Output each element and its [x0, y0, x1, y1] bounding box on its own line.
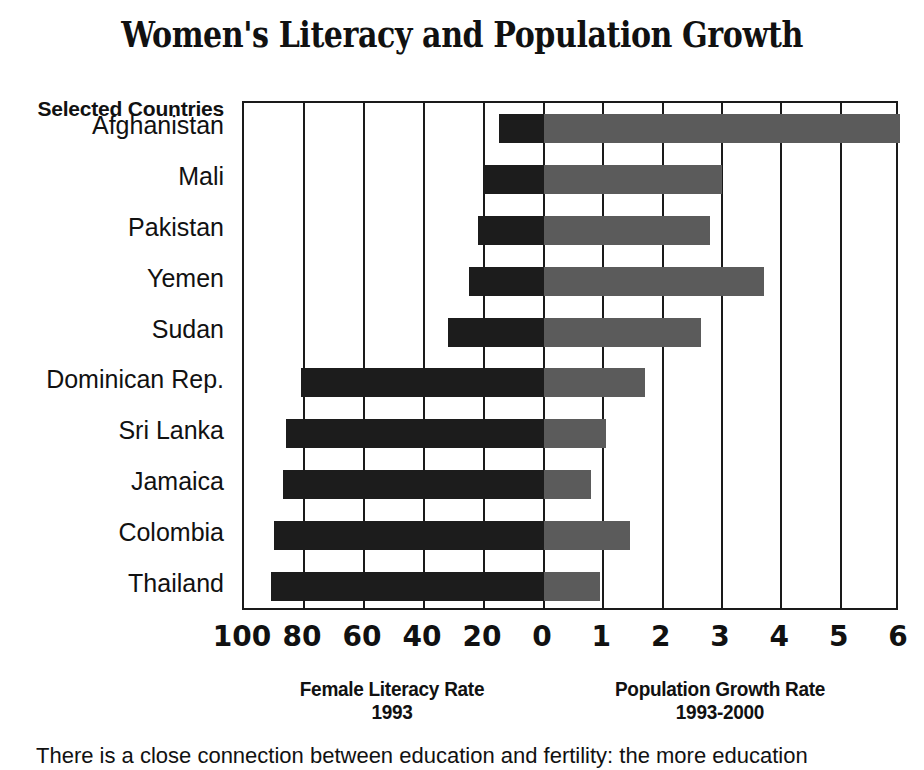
gridline [840, 103, 842, 608]
bar-female-literacy [271, 572, 544, 601]
bar-population-growth [544, 165, 722, 194]
tick-growth-6: 6 [858, 620, 924, 653]
bar-population-growth [544, 419, 606, 448]
category-label: Sudan [152, 315, 224, 343]
category-label: Afghanistan [92, 111, 224, 139]
bar-population-growth [544, 216, 710, 245]
page-title: Women's Literacy and Population Growth [65, 14, 860, 55]
bar-female-literacy [469, 267, 544, 296]
category-label: Yemen [147, 264, 224, 292]
category-label: Sri Lanka [118, 416, 224, 444]
bar-population-growth [544, 368, 645, 397]
left-axis-title: Female Literacy Rate 1993 [250, 678, 535, 724]
gridline [780, 103, 782, 608]
category-label: Jamaica [131, 467, 224, 495]
bar-population-growth [544, 572, 600, 601]
bar-female-literacy [448, 318, 544, 347]
left-axis-title-text: Female Literacy Rate [300, 678, 484, 700]
bar-female-literacy [484, 165, 544, 194]
right-axis-title: Population Growth Rate 1993-2000 [551, 678, 889, 724]
bar-female-literacy [274, 521, 544, 550]
category-label: Colombia [118, 518, 224, 546]
right-axis-title-text: Population Growth Rate [615, 678, 825, 700]
bar-population-growth [544, 521, 630, 550]
category-label: Dominican Rep. [46, 365, 224, 393]
chart-plot-area [242, 101, 898, 610]
bar-population-growth [544, 114, 900, 143]
category-label: Thailand [128, 569, 224, 597]
bar-population-growth [544, 470, 591, 499]
category-label: Pakistan [128, 213, 224, 241]
left-axis-title-period: 1993 [250, 701, 535, 724]
category-label-column: Selected Countries AfghanistanMaliPakist… [0, 101, 232, 610]
bar-female-literacy [301, 368, 544, 397]
bar-population-growth [544, 267, 764, 296]
bar-female-literacy [478, 216, 544, 245]
figure-caption: There is a close connection between educ… [36, 742, 896, 770]
category-label: Mali [178, 162, 224, 190]
right-axis-title-period: 1993-2000 [551, 701, 889, 724]
bar-female-literacy [499, 114, 544, 143]
bar-population-growth [544, 318, 701, 347]
bar-female-literacy [283, 470, 544, 499]
x-axis-tick-labels: 100806040200123456 [0, 620, 924, 660]
bar-female-literacy [286, 419, 544, 448]
